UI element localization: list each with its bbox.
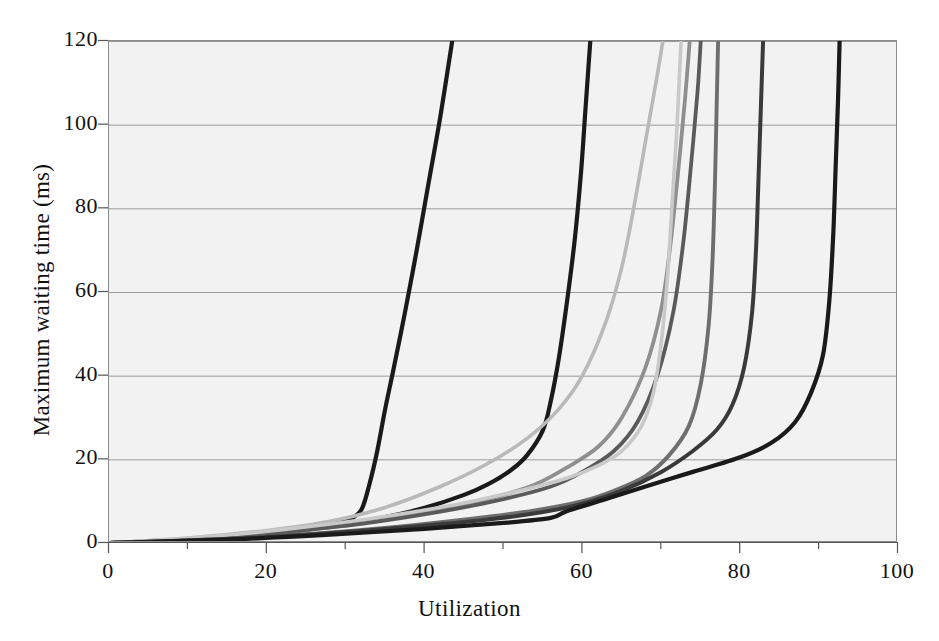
x-tick-label: 60 — [551, 560, 611, 582]
series-line-curve-9 — [109, 41, 840, 542]
x-tick-label: 40 — [394, 560, 454, 582]
y-tick-label: 0 — [50, 530, 98, 552]
series-line-curve-7 — [109, 41, 718, 542]
y-axis-title-wrapper: Maximum waiting time (ms) — [29, 70, 59, 530]
x-axis-tick-labels: 020406080100 — [0, 560, 939, 594]
series-line-curve-6 — [109, 41, 681, 542]
x-tick-label: 100 — [867, 560, 927, 582]
x-tick-label: 20 — [236, 560, 296, 582]
y-axis-title: Maximum waiting time (ms) — [29, 70, 55, 530]
y-tick-label: 120 — [50, 28, 98, 50]
series-line-curve-3 — [109, 41, 663, 542]
plot-svg — [109, 41, 897, 542]
series-line-curve-5 — [109, 41, 701, 542]
series-line-curve-4 — [109, 41, 690, 542]
x-axis-title: Utilization — [0, 596, 939, 622]
data-series-layer — [109, 41, 840, 542]
plot-area — [108, 40, 897, 542]
series-line-curve-2 — [109, 41, 590, 542]
x-tick-label: 0 — [78, 560, 138, 582]
x-tick-label: 80 — [709, 560, 769, 582]
series-line-curve-1 — [109, 41, 452, 542]
chart-figure: rated capacity of a link while it is run… — [0, 0, 939, 641]
gridlines — [109, 42, 897, 460]
